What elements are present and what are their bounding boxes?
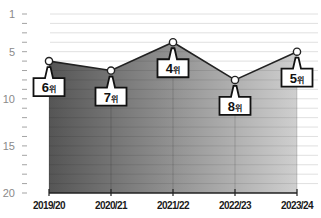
x-tick-label: 2019/20 bbox=[33, 200, 66, 211]
data-point-marker bbox=[293, 48, 300, 55]
x-axis: 2019/202020/212021/222022/232023/24 bbox=[33, 189, 314, 211]
x-tick-label: 2020/21 bbox=[95, 200, 128, 211]
y-tick-label: 1 bbox=[9, 8, 15, 20]
data-point-marker bbox=[45, 58, 52, 65]
y-tick-label: 20 bbox=[3, 187, 15, 199]
data-point-marker bbox=[231, 76, 238, 83]
y-axis: 15101520 bbox=[3, 8, 27, 199]
data-point-marker bbox=[107, 67, 114, 74]
x-tick-label: 2021/22 bbox=[157, 200, 190, 211]
x-tick-label: 2023/24 bbox=[281, 200, 314, 211]
rank-area-chart: 15101520 2019/202020/212021/222022/23202… bbox=[0, 0, 321, 218]
y-tick-label: 10 bbox=[3, 93, 15, 105]
x-tick-label: 2022/23 bbox=[219, 200, 252, 211]
y-tick-label: 15 bbox=[3, 140, 15, 152]
data-point-marker bbox=[169, 39, 176, 46]
y-tick-label: 5 bbox=[9, 46, 15, 58]
